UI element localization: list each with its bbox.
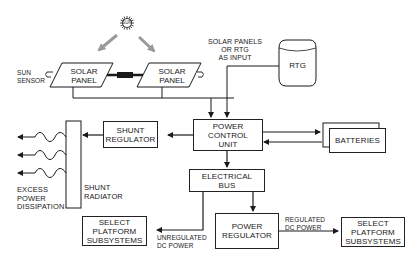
sun-label: SUN: [120, 20, 134, 25]
shunt-regulator: SHUNT REGULATOR: [103, 121, 158, 148]
power-regulator-label: POWER REGULATOR: [222, 222, 272, 240]
electrical-bus-label: ELECTRICAL BUS: [202, 172, 252, 190]
solar-panel-right-label: SOLAR PANEL: [150, 67, 194, 85]
unregulated-dc-power-label: UNREGULATED DC POWER: [157, 234, 207, 249]
electrical-bus: ELECTRICAL BUS: [189, 169, 265, 192]
excess-power-label: EXCESS POWER DISSIPATION: [17, 186, 65, 212]
shunt-regulator-label: SHUNT REGULATOR: [106, 126, 156, 144]
panel-hinge-block: [117, 72, 133, 78]
select-platform-left: SELECT PLATFORM SUBSYSTEMS: [82, 216, 147, 246]
bus-to-unregulated-arrow: [157, 192, 203, 230]
heat-dissipation-icons: [18, 133, 66, 178]
sun-sensor-label: SUN SENSOR: [17, 69, 45, 84]
rtg-to-pcu-arrow: [227, 66, 279, 117]
sun-sensor-left-icon: [46, 72, 54, 77]
shunt-radiator-plate: [66, 121, 81, 208]
power-regulator: POWER REGULATOR: [215, 213, 279, 249]
input-note-label: SOLAR PANELS OR RTG AS INPUT: [200, 38, 270, 62]
sunlight-arrow-right: [139, 37, 154, 51]
power-control-unit-label: POWER CONTROL UNIT: [208, 122, 248, 149]
select-platform-right-label: SELECT PLATFORM SUBSYSTEMS: [345, 219, 401, 246]
power-subsystem-diagram: SUN SUN SENSOR SOLAR PANEL SOLAR PANEL S…: [0, 0, 419, 265]
batteries-box: BATTERIES: [329, 128, 386, 153]
regulated-dc-power-label: REGULATED DC POWER: [285, 216, 325, 231]
sun-sensor-right-icon: [196, 72, 204, 77]
batteries-label: BATTERIES: [335, 136, 380, 145]
solar-panel-left-label: SOLAR PANEL: [62, 67, 106, 85]
select-platform-left-label: SELECT PLATFORM SUBSYSTEMS: [87, 218, 143, 245]
sunlight-arrow-left: [99, 35, 117, 50]
select-platform-right: SELECT PLATFORM SUBSYSTEMS: [341, 217, 405, 247]
power-control-unit: POWER CONTROL UNIT: [193, 119, 263, 151]
shunt-radiator-label: SHUNT RADIATOR: [84, 184, 123, 201]
rtg-label: RTG: [279, 61, 316, 70]
